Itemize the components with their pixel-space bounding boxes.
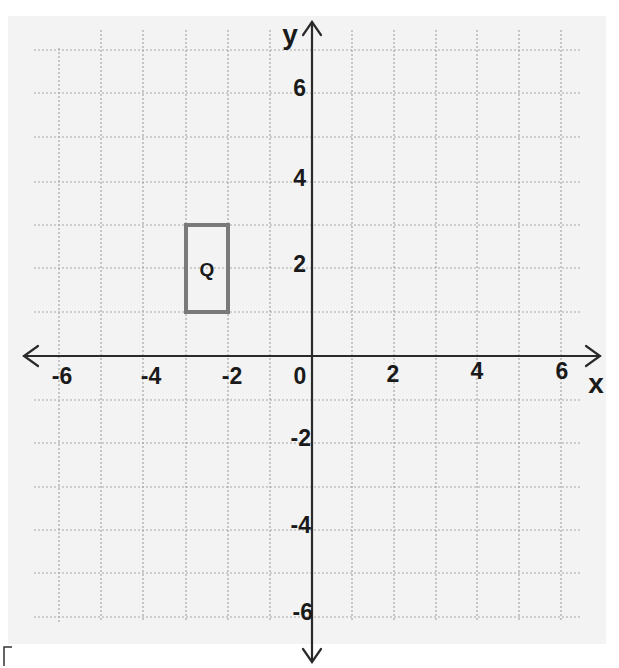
- origin-label: 0: [294, 363, 307, 389]
- graph-paper-background: [8, 16, 606, 644]
- corner-mark: [4, 647, 12, 666]
- y-tick-label: -6: [293, 599, 313, 625]
- x-tick-label: -4: [141, 363, 162, 389]
- x-tick-label: 4: [471, 358, 484, 384]
- x-axis-label: x: [588, 368, 604, 399]
- x-tick-label: -6: [52, 363, 72, 389]
- y-tick-label: -2: [291, 425, 311, 451]
- y-tick-label: 6: [293, 75, 306, 101]
- y-tick-label: 2: [293, 251, 306, 277]
- rectangle-q-label: Q: [200, 259, 215, 280]
- y-tick-label: -4: [291, 512, 312, 538]
- y-axis-label: y: [282, 19, 298, 50]
- x-tick-label: -2: [222, 363, 242, 389]
- y-tick-label: 4: [293, 165, 306, 191]
- x-tick-label: 6: [556, 358, 569, 384]
- x-tick-label: 2: [387, 361, 400, 387]
- coordinate-plane: y x -6 -4 -2 0 2 4 6 6 4 2 -2 -4 -6 Q: [0, 0, 619, 668]
